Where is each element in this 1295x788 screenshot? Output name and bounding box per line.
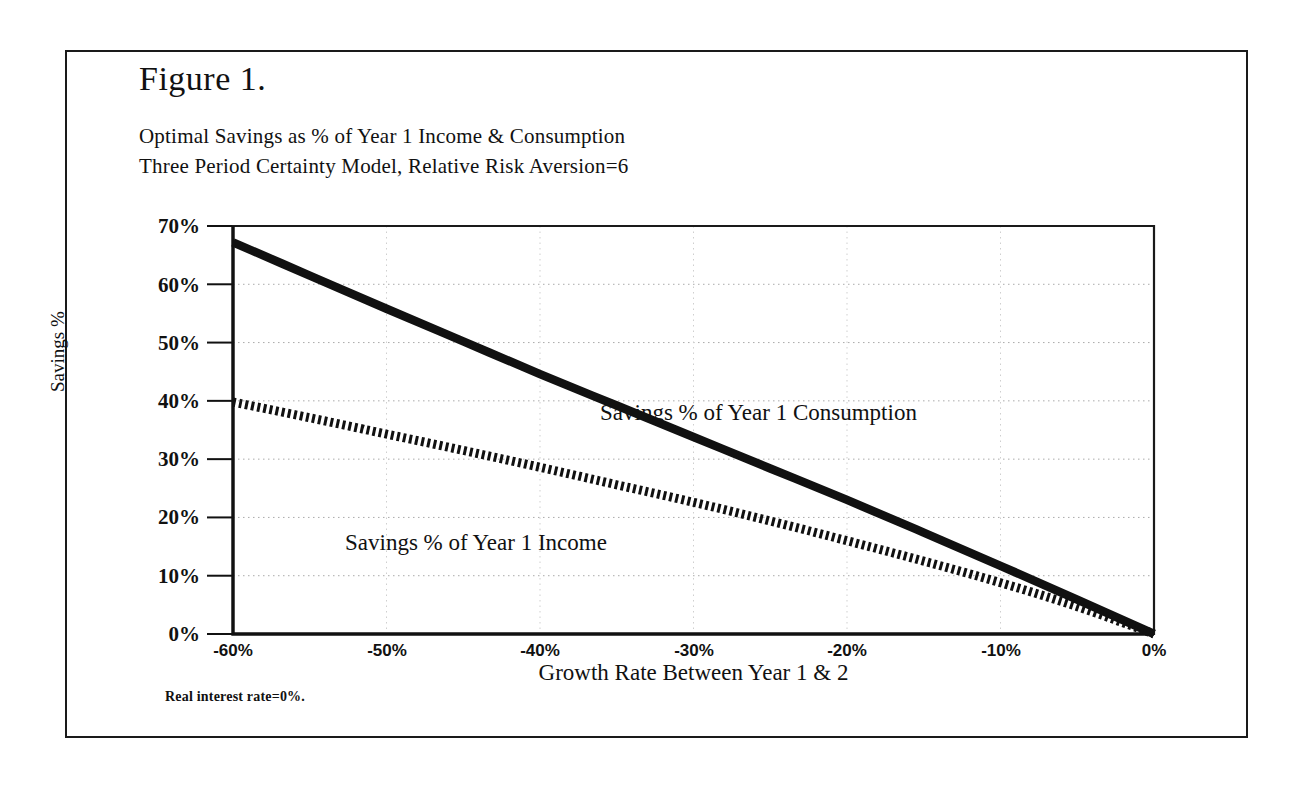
y-tick-label-50: 50% [110, 331, 200, 356]
chart-subtitle-line-1: Optimal Savings as % of Year 1 Income & … [139, 124, 625, 149]
x-tick-label-neg20: -20% [787, 641, 907, 661]
series-label-income: Savings % of Year 1 Income [345, 530, 607, 556]
y-tick-label-60: 60% [110, 273, 200, 298]
y-tick-label-20: 20% [110, 505, 200, 530]
x-tick-label-neg50: -50% [327, 641, 447, 661]
x-tick-label-0: 0% [1094, 641, 1214, 661]
x-tick-label-neg30: -30% [634, 641, 754, 661]
y-axis-title: Savings % [47, 311, 69, 392]
chart-subtitle-line-2: Three Period Certainty Model, Relative R… [139, 154, 628, 179]
y-tick-label-70: 70% [110, 214, 200, 239]
y-tick-label-40: 40% [110, 389, 200, 414]
y-tick-label-10: 10% [110, 564, 200, 589]
x-tick-label-neg60: -60% [173, 641, 293, 661]
x-tick-label-neg40: -40% [480, 641, 600, 661]
series-label-consumption: Savings % of Year 1 Consumption [600, 400, 917, 426]
figure-label: Figure 1. [139, 60, 266, 98]
chart-footnote: Real interest rate=0%. [165, 689, 305, 705]
x-axis-title: Growth Rate Between Year 1 & 2 [233, 660, 1154, 686]
y-tick-label-30: 30% [110, 447, 200, 472]
x-tick-label-neg10: -10% [941, 641, 1061, 661]
figure-frame: Figure 1. Optimal Savings as % of Year 1… [65, 50, 1248, 738]
